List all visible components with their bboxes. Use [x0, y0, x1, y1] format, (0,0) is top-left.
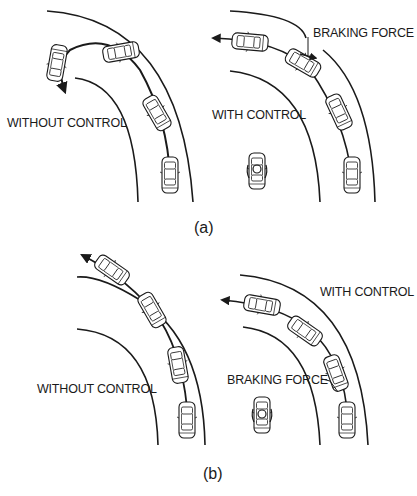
- car-icon: [44, 44, 70, 83]
- car-icon: [342, 157, 362, 193]
- panel-b-without-control: [77, 251, 205, 445]
- panel-b-with-control: [222, 275, 368, 445]
- car-icon: [139, 92, 174, 133]
- panel-a-without-control: [44, 11, 193, 202]
- label-with-control-a: WITH CONTROL: [212, 108, 306, 122]
- car-icon: [92, 251, 133, 288]
- caption-a: (a): [194, 219, 214, 237]
- car-icon: [102, 39, 141, 65]
- car-icon: [247, 153, 267, 189]
- car-icon: [177, 402, 197, 438]
- car-icon: [231, 30, 269, 53]
- label-braking-force-b: BRAKING FORCE: [227, 373, 328, 387]
- road-inner-edge: [75, 78, 138, 202]
- car-icon: [322, 91, 355, 132]
- car-icon: [165, 346, 191, 385]
- label-with-control-b: WITH CONTROL: [320, 285, 414, 299]
- label-without-control-b: WITHOUT CONTROL: [37, 382, 157, 396]
- car-icon: [282, 45, 323, 80]
- car-icon: [252, 397, 272, 433]
- car-icon: [160, 157, 180, 193]
- label-without-control-a: WITHOUT CONTROL: [7, 116, 127, 130]
- car-icon: [243, 292, 282, 318]
- car-icon: [337, 402, 357, 438]
- caption-b: (b): [203, 465, 223, 483]
- road-inner-edge: [230, 71, 320, 202]
- label-braking-force-a: BRAKING FORCE: [313, 26, 414, 40]
- diagram-canvas: [0, 0, 417, 496]
